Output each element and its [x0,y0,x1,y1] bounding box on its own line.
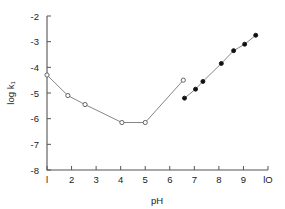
y-axis-tick-labels: -2-3-4-5-6-7-8 [31,11,39,176]
filled-circle-marker [219,61,223,65]
open-circle-marker [181,78,185,82]
filled-circle-marker [183,96,187,100]
chart-figure: l23456789lO -2-3-4-5-6-7-8 pH log k₁ [0,0,285,209]
axis-lines [47,16,268,170]
y-axis-ticks [47,16,51,170]
filled-circle-marker [243,42,247,46]
filled-circle-marker [201,79,205,83]
x-axis-ticks [47,166,268,170]
x-tick-label: 7 [192,174,197,185]
x-tick-label: 5 [143,174,148,185]
filled-circle-marker [232,49,236,53]
y-tick-label: -2 [31,11,39,22]
open-circle-marker [66,93,70,97]
series-line [47,75,183,122]
axes [47,16,268,170]
open-circle-marker [45,73,49,77]
y-tick-label: -7 [31,139,39,150]
x-tick-label: 4 [118,174,123,185]
x-tick-label: lO [263,174,273,185]
y-axis-title: log k₁ [5,81,16,104]
x-tick-label: 3 [93,174,98,185]
x-tick-label: 2 [69,174,74,185]
open-circle-marker [143,120,147,124]
open-circle-marker [120,120,124,124]
filled-circle-marker [194,87,198,91]
x-axis-title: pH [151,195,163,206]
open-circle-marker [83,102,87,106]
x-tick-label: 6 [167,174,172,185]
series-open-circle-branch [45,73,185,125]
y-tick-label: -3 [31,36,39,47]
x-tick-label: 8 [216,174,221,185]
series-filled-circle-branch [183,33,258,100]
y-tick-label: -4 [31,62,39,73]
x-tick-label: l [46,174,48,185]
y-tick-label: -6 [31,113,39,124]
x-axis-tick-labels: l23456789lO [46,174,273,185]
data-series-group [45,33,258,124]
ph-vs-log-k-plot: l23456789lO -2-3-4-5-6-7-8 pH log k₁ [0,0,285,209]
filled-circle-marker [254,33,258,37]
y-tick-label: -8 [31,165,39,176]
x-tick-label: 9 [241,174,246,185]
y-tick-label: -5 [31,88,39,99]
